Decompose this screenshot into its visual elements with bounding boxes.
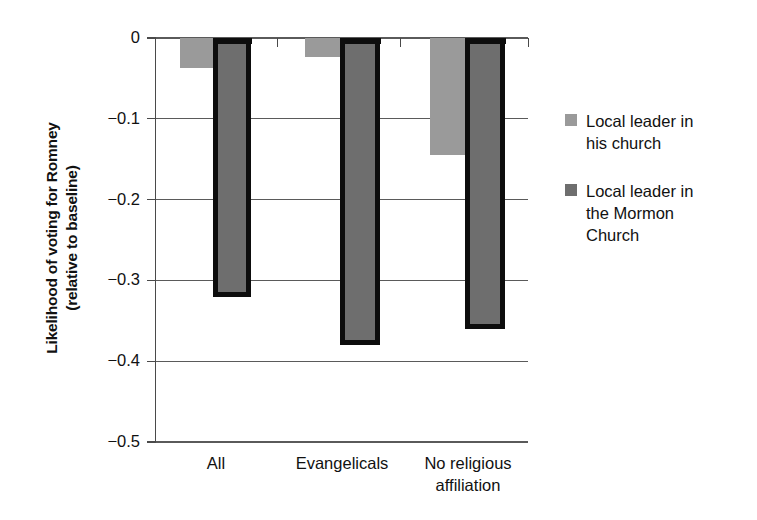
legend-label: Local leader in his church	[586, 110, 693, 154]
y-axis-tick-label-wrap: −0.2	[78, 191, 140, 209]
bar-light-0	[180, 38, 213, 68]
bar-chart: Likelihood of voting for Romney (relativ…	[0, 0, 757, 520]
bar-light-2	[430, 38, 465, 155]
y-axis-tick-mark	[147, 441, 156, 442]
gridline	[155, 361, 528, 362]
bar-dark-0	[213, 38, 251, 297]
legend: Local leader in his churchLocal leader i…	[565, 110, 750, 272]
y-axis-tick-label-wrap: −0.3	[78, 271, 140, 289]
y-axis-tick-label: −0.3	[80, 271, 140, 288]
bar-dark-2	[465, 38, 505, 329]
y-axis-tick-mark	[147, 280, 156, 281]
y-axis-tick-label-wrap: 0	[78, 29, 140, 47]
x-axis-tick-mark	[528, 38, 529, 47]
y-axis-tick-mark	[147, 118, 156, 119]
bar-dark-1	[340, 38, 380, 345]
y-axis-tick-label-wrap: −0.1	[78, 110, 140, 128]
x-axis-tick-mark	[277, 38, 278, 47]
y-axis-tick-label: −0.2	[80, 191, 140, 208]
bar-light-1	[305, 38, 340, 57]
y-axis-title: Likelihood of voting for Romney (relativ…	[42, 78, 82, 398]
y-axis-tick-mark	[147, 199, 156, 200]
y-axis-tick-label: −0.1	[80, 110, 140, 127]
y-axis-tick-label: −0.4	[80, 352, 140, 369]
legend-item-0: Local leader in his church	[565, 110, 750, 154]
y-axis-tick-label: 0	[80, 29, 140, 46]
gridline	[155, 441, 528, 442]
y-axis-tick-label: −0.5	[80, 433, 140, 450]
legend-swatch-icon	[565, 184, 577, 196]
y-axis-tick-mark	[147, 37, 156, 38]
x-axis-tick-mark	[400, 38, 401, 47]
y-axis-tick-label-wrap: −0.5	[78, 433, 140, 451]
y-axis-tick-mark	[147, 361, 156, 362]
y-axis-tick-label-wrap: −0.4	[78, 352, 140, 370]
x-axis-category-label: No religious affiliation	[388, 452, 548, 496]
y-axis-line	[155, 37, 156, 443]
legend-swatch-icon	[565, 114, 577, 126]
legend-item-1: Local leader in the Mormon Church	[565, 180, 750, 246]
legend-label: Local leader in the Mormon Church	[586, 180, 693, 246]
